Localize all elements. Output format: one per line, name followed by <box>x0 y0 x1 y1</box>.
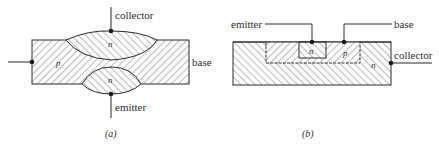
a-collector-contact-dot <box>109 29 114 34</box>
diagram-canvas: collector base emitter p n n (a) emitter… <box>0 0 439 147</box>
b-collector-region-label: n <box>371 60 376 70</box>
b-collector-label: collector <box>394 49 433 61</box>
figure-a: collector base emitter p n n (a) <box>8 7 212 140</box>
b-emitter-contact-dot <box>310 40 315 45</box>
b-base-contact-dot <box>342 40 347 45</box>
a-base-contact-dot <box>30 60 35 65</box>
a-emitter-contact-dot <box>109 92 114 97</box>
b-base-region-label: p <box>342 48 348 58</box>
a-emitter-region-label: n <box>108 75 113 85</box>
a-emitter-label: emitter <box>115 101 146 113</box>
b-emitter-label: emitter <box>231 18 262 30</box>
a-base-label: base <box>192 56 212 68</box>
figure-b: emitter base collector n p n (b) <box>231 18 433 140</box>
b-base-label: base <box>394 18 414 30</box>
a-base-region-label: p <box>55 58 61 68</box>
b-collector-contact-dot <box>389 61 394 66</box>
b-caption: (b) <box>302 128 314 140</box>
transistor-diagram: collector base emitter p n n (a) emitter… <box>0 0 439 147</box>
b-emitter-lead <box>265 24 312 42</box>
a-collector-region-label: n <box>108 39 113 49</box>
a-collector-label: collector <box>115 9 154 21</box>
a-caption: (a) <box>105 128 117 140</box>
b-base-lead <box>344 24 392 42</box>
b-emitter-region-label: n <box>309 46 314 56</box>
